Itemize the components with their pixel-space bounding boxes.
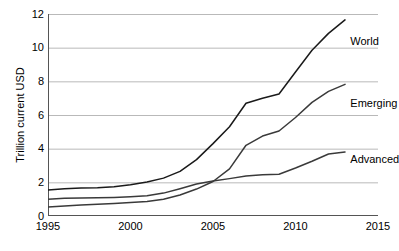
x-tick-label: 2010: [276, 221, 316, 232]
y-tick-label: 8: [20, 76, 44, 87]
series-label-world: World: [350, 36, 379, 47]
y-tick-label: 2: [20, 177, 44, 188]
x-tick-label: 2005: [193, 221, 233, 232]
x-axis-tick-labels: 19952000200520102015: [48, 221, 378, 235]
series-label-advanced: Advanced: [350, 154, 399, 165]
y-tick-label: 12: [20, 9, 44, 20]
x-tick-label: 2015: [358, 221, 398, 232]
cut-off-caption: [52, 241, 352, 250]
chart-canvas: [48, 14, 378, 216]
series-label-emerging: Emerging: [350, 98, 397, 109]
y-tick-label: 10: [20, 42, 44, 53]
series-line-world: [48, 20, 345, 190]
y-tick-label: 6: [20, 110, 44, 121]
y-tick-label: 4: [20, 143, 44, 154]
x-tick-label: 1995: [28, 221, 68, 232]
plot-area: [48, 14, 378, 216]
series-line-emerging: [48, 84, 345, 207]
x-tick-label: 2000: [111, 221, 151, 232]
y-axis-tick-labels: 024681012: [20, 14, 44, 216]
gridlines: [48, 15, 378, 183]
